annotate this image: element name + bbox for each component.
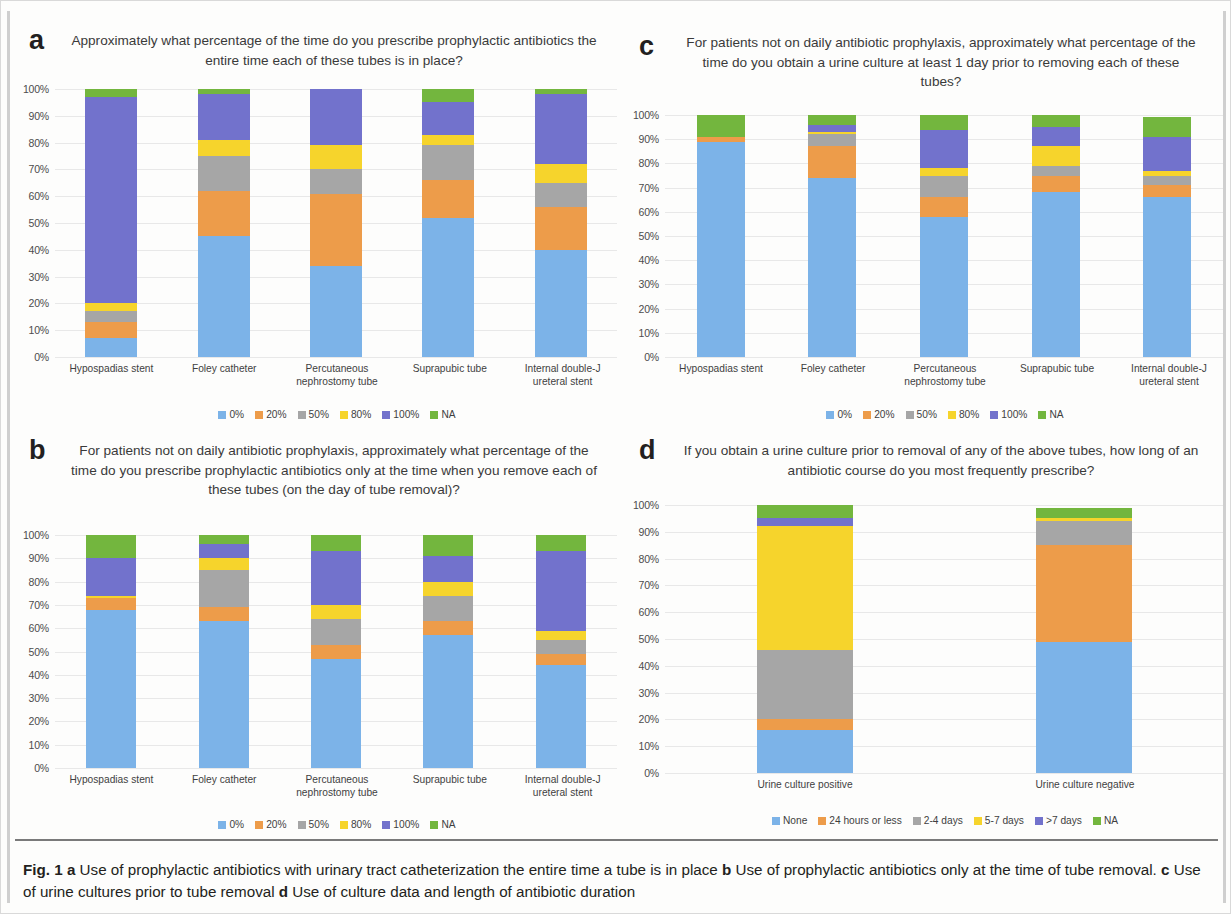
bar-segment[interactable] <box>757 650 853 720</box>
bar-segment[interactable] <box>85 322 137 338</box>
legend-item[interactable]: 0% <box>218 819 244 830</box>
legend-item[interactable]: NA <box>430 819 455 830</box>
stacked-bar[interactable] <box>1143 115 1191 357</box>
stacked-bar[interactable] <box>86 535 136 768</box>
bar-segment[interactable] <box>757 719 853 730</box>
bar-segment[interactable] <box>85 338 137 357</box>
bar-segment[interactable] <box>920 176 968 198</box>
bar-segment[interactable] <box>198 140 250 156</box>
bar-segment[interactable] <box>423 582 473 596</box>
bar-segment[interactable] <box>311 659 361 769</box>
bar-segment[interactable] <box>85 303 137 311</box>
stacked-bar[interactable] <box>920 115 968 357</box>
bar-segment[interactable] <box>536 654 586 666</box>
bar-segment[interactable] <box>311 645 361 659</box>
bar-segment[interactable] <box>422 135 474 146</box>
legend-item[interactable]: None <box>772 815 807 826</box>
bar-segment[interactable] <box>198 191 250 237</box>
bar-segment[interactable] <box>422 102 474 134</box>
bar-segment[interactable] <box>920 115 968 130</box>
bar-segment[interactable] <box>536 551 586 630</box>
bar-segment[interactable] <box>199 535 249 544</box>
stacked-bar[interactable] <box>536 535 586 768</box>
legend-item[interactable]: 80% <box>340 409 371 420</box>
bar-segment[interactable] <box>1032 166 1080 176</box>
bar-segment[interactable] <box>423 556 473 582</box>
bar-segment[interactable] <box>920 168 968 175</box>
bar-segment[interactable] <box>920 217 968 357</box>
bar-segment[interactable] <box>757 730 853 773</box>
legend-item[interactable]: 100% <box>990 409 1027 420</box>
bar-segment[interactable] <box>311 605 361 619</box>
bar-segment[interactable] <box>536 665 586 768</box>
bar-segment[interactable] <box>1036 545 1132 641</box>
stacked-bar[interactable] <box>1032 115 1080 357</box>
stacked-bar[interactable] <box>535 89 587 357</box>
bar-segment[interactable] <box>808 125 856 132</box>
bar-segment[interactable] <box>1032 127 1080 146</box>
bar-segment[interactable] <box>536 640 586 654</box>
legend-item[interactable]: 0% <box>218 409 244 420</box>
stacked-bar[interactable] <box>198 89 250 357</box>
bar-segment[interactable] <box>85 97 137 303</box>
stacked-bar[interactable] <box>757 505 853 773</box>
bar-segment[interactable] <box>85 311 137 322</box>
bar-segment[interactable] <box>199 544 249 558</box>
legend-item[interactable]: NA <box>1093 815 1118 826</box>
bar-segment[interactable] <box>808 115 856 125</box>
bar-segment[interactable] <box>423 535 473 556</box>
bar-segment[interactable] <box>311 535 361 551</box>
bar-segment[interactable] <box>1036 642 1132 773</box>
legend-item[interactable]: 80% <box>948 409 979 420</box>
bar-segment[interactable] <box>423 621 473 635</box>
bar-segment[interactable] <box>1143 117 1191 136</box>
stacked-bar[interactable] <box>422 89 474 357</box>
legend-item[interactable]: 2-4 days <box>913 815 963 826</box>
legend-item[interactable]: NA <box>430 409 455 420</box>
bar-segment[interactable] <box>199 570 249 607</box>
bar-segment[interactable] <box>422 218 474 357</box>
legend-item[interactable]: 5-7 days <box>974 815 1024 826</box>
bar-segment[interactable] <box>199 607 249 621</box>
bar-segment[interactable] <box>86 610 136 768</box>
legend-item[interactable]: 50% <box>298 819 329 830</box>
bar-segment[interactable] <box>1143 185 1191 197</box>
bar-segment[interactable] <box>920 197 968 216</box>
bar-segment[interactable] <box>1143 197 1191 357</box>
bar-segment[interactable] <box>535 250 587 357</box>
legend-item[interactable]: 100% <box>382 409 419 420</box>
bar-segment[interactable] <box>310 89 362 145</box>
bar-segment[interactable] <box>697 115 745 137</box>
bar-segment[interactable] <box>311 551 361 605</box>
bar-segment[interactable] <box>1143 137 1191 171</box>
bar-segment[interactable] <box>808 146 856 177</box>
bar-segment[interactable] <box>199 558 249 570</box>
bar-segment[interactable] <box>535 164 587 183</box>
bar-segment[interactable] <box>423 596 473 622</box>
bar-segment[interactable] <box>1032 192 1080 357</box>
legend-item[interactable]: 0% <box>826 409 852 420</box>
bar-segment[interactable] <box>422 89 474 102</box>
bar-segment[interactable] <box>86 598 136 610</box>
bar-segment[interactable] <box>697 142 745 357</box>
stacked-bar[interactable] <box>697 115 745 357</box>
legend-item[interactable]: 20% <box>863 409 894 420</box>
legend-item[interactable]: 50% <box>906 409 937 420</box>
bar-segment[interactable] <box>198 94 250 140</box>
bar-segment[interactable] <box>757 526 853 649</box>
bar-segment[interactable] <box>86 535 136 558</box>
bar-segment[interactable] <box>757 518 853 526</box>
stacked-bar[interactable] <box>310 89 362 357</box>
legend-item[interactable]: NA <box>1038 409 1063 420</box>
bar-segment[interactable] <box>310 266 362 357</box>
bar-segment[interactable] <box>1036 521 1132 545</box>
bar-segment[interactable] <box>536 631 586 640</box>
stacked-bar[interactable] <box>85 89 137 357</box>
bar-segment[interactable] <box>311 619 361 645</box>
bar-segment[interactable] <box>757 505 853 518</box>
bar-segment[interactable] <box>310 194 362 266</box>
bar-segment[interactable] <box>198 156 250 191</box>
legend-item[interactable]: 20% <box>255 819 286 830</box>
stacked-bar[interactable] <box>423 535 473 768</box>
bar-segment[interactable] <box>535 183 587 207</box>
